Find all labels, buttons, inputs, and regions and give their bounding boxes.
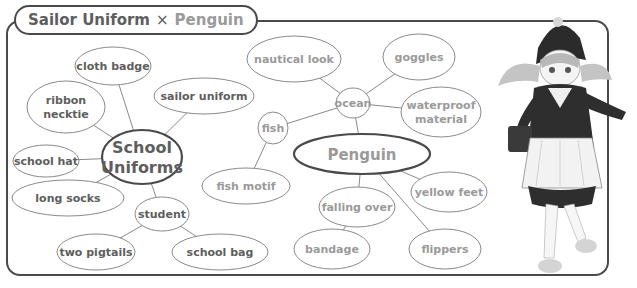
node-label: bandage: [305, 243, 359, 256]
node-ribbon-necktie: ribbonnecktie: [27, 81, 105, 133]
node-school-hat: school hat: [13, 145, 79, 177]
node-label: necktie: [43, 108, 89, 121]
node-label: ocean: [335, 97, 372, 110]
node-label: student: [138, 208, 186, 221]
node-label: material: [415, 113, 467, 126]
node-goggles: goggles: [383, 34, 455, 80]
node-yellow-feet: yellow feet: [411, 172, 487, 212]
node-long-socks: long socks: [12, 180, 124, 216]
node-falling-over: falling over: [319, 187, 395, 227]
node-label: long socks: [35, 192, 101, 205]
node-label: school hat: [14, 155, 78, 168]
node-label: fish: [262, 122, 285, 135]
node-two-pigtails: two pigtails: [57, 234, 135, 270]
hub-school-uniforms: SchoolUniforms: [101, 130, 183, 184]
nodes-layer: cloth badgeribbonnecktiesailor uniformsc…: [12, 34, 487, 270]
node-label: flippers: [421, 243, 469, 256]
node-label: sailor uniform: [161, 90, 248, 103]
character-illustration: [488, 8, 628, 284]
node-label: waterproof: [407, 99, 476, 112]
node-label: fish motif: [216, 180, 275, 193]
node-label: goggles: [395, 51, 444, 64]
title-part-penguin: Penguin: [175, 11, 244, 29]
node-label: cloth badge: [76, 60, 149, 73]
node-label: school bag: [187, 246, 254, 259]
node-label: two pigtails: [59, 246, 133, 259]
node-bandage: bandage: [294, 229, 370, 269]
node-label: Penguin: [327, 146, 396, 164]
node-waterproof-material: waterproofmaterial: [401, 87, 481, 137]
node-school-bag: school bag: [172, 234, 268, 270]
node-ocean: ocean: [335, 88, 372, 118]
hub-penguin: Penguin: [294, 134, 430, 174]
title-separator: ×: [156, 11, 169, 29]
node-label: Uniforms: [101, 158, 183, 177]
node-label: nautical look: [254, 53, 335, 66]
diagram-title: Sailor Uniform × Penguin: [14, 5, 258, 35]
node-label: falling over: [322, 201, 393, 214]
node-fish-motif: fish motif: [202, 168, 290, 204]
node-nautical-look: nautical look: [247, 36, 341, 82]
node-label: yellow feet: [415, 186, 484, 199]
node-flippers: flippers: [409, 229, 481, 269]
title-part-uniform: Sailor Uniform: [28, 11, 150, 29]
node-sailor-uniform: sailor uniform: [154, 78, 254, 114]
node-fish: fish: [258, 112, 288, 144]
node-cloth-badge: cloth badge: [75, 47, 151, 85]
node-student: student: [135, 197, 189, 231]
node-label: ribbon: [46, 94, 86, 107]
node-label: School: [112, 138, 172, 157]
